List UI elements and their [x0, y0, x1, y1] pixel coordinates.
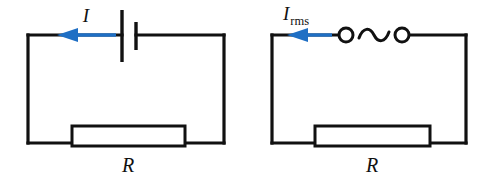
ac-current-label-subscript: rms	[290, 14, 309, 28]
circuit-diagram-canvas: I R	[0, 0, 497, 186]
ac-resistor-box	[315, 126, 430, 146]
ac-right-terminal-circle	[395, 28, 409, 42]
dc-current-arrow	[57, 28, 116, 42]
ac-left-terminal-circle	[339, 28, 353, 42]
ac-sine-wave-icon	[359, 29, 389, 40]
ac-current-arrow	[287, 28, 332, 42]
dc-resistor-label: R	[121, 154, 134, 176]
ac-resistor-label: R	[365, 154, 378, 176]
dc-resistor-box	[72, 126, 185, 146]
ac-circuit: Irms R	[272, 3, 466, 176]
ac-current-arrow-head	[287, 28, 308, 42]
circuit-figure: I R	[0, 0, 497, 186]
dc-current-arrow-head	[57, 28, 78, 42]
ac-current-label: Irms	[282, 3, 309, 28]
ac-source-symbol	[339, 28, 409, 42]
dc-circuit: I R	[28, 5, 224, 176]
dc-current-label: I	[82, 5, 91, 26]
